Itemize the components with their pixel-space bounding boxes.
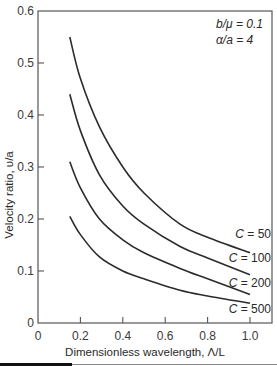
x-axis-title: Dimensionless wavelength, Λ/L [65, 346, 225, 358]
curve-c200 [70, 162, 250, 295]
x-axis: 00.20.40.60.81.0 [35, 317, 259, 343]
series-label: C = 500 [229, 302, 272, 316]
x-tick-label: 1.0 [242, 329, 259, 343]
x-tick-label: 0.2 [72, 329, 89, 343]
y-tick-label: 0.3 [17, 160, 34, 174]
y-axis-title: Velocity ratio, υ/a [3, 151, 15, 239]
x-tick-label: 0.4 [114, 329, 131, 343]
annotation-alpha-a: α/a = 4 [216, 33, 254, 47]
y-tick-label: 0.1 [17, 264, 34, 278]
series-label: C = 100 [229, 251, 272, 265]
y-tick-label: 0 [27, 316, 34, 330]
x-tick-label: 0 [35, 329, 42, 343]
x-tick-label: 0.6 [157, 329, 174, 343]
y-tick-label: 0.2 [17, 212, 34, 226]
curve-c50 [70, 37, 250, 253]
bottom-divider [72, 364, 277, 365]
series-label: C = 50 [235, 227, 271, 241]
series-labels: C = 50C = 100C = 200C = 500 [229, 227, 272, 316]
y-tick-label: 0.5 [17, 56, 34, 70]
series-curves [70, 37, 250, 303]
y-tick-label: 0.4 [17, 108, 34, 122]
series-label: C = 200 [229, 276, 272, 290]
y-axis: 00.10.20.30.40.50.6 [17, 4, 44, 330]
y-tick-label: 0.6 [17, 4, 34, 18]
line-chart: 00.10.20.30.40.50.6 00.20.40.60.81.0 C =… [0, 0, 277, 366]
annotation-b-mu: b/μ = 0.1 [216, 17, 263, 31]
x-tick-label: 0.8 [199, 329, 216, 343]
